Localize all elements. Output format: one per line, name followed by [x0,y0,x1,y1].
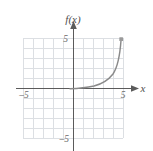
curve-endpoint-dot [119,37,123,41]
function-graph-figure: f(x) x 5 –5 –5 5 [0,0,153,151]
y-tick-label-positive: 5 [63,34,68,44]
x-axis-label: x [140,82,146,94]
y-axis [70,21,77,151]
function-label: f(x) [65,13,81,26]
x-axis-arrowhead [131,85,139,92]
function-curve [70,37,123,88]
x-tick-label-negative: –5 [18,90,29,100]
y-tick-label-negative: –5 [59,134,70,144]
x-tick-label-positive: 5 [121,90,126,100]
